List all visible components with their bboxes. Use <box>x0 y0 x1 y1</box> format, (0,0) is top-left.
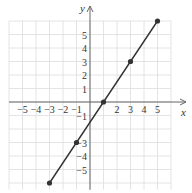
x-axis-label: x <box>180 106 186 118</box>
y-tick-label: 3 <box>82 57 87 68</box>
coordinate-plane-graph: xy −5−4−3−2−1234554321−1−3−4−5 <box>0 0 192 193</box>
axes: xy <box>9 2 186 190</box>
x-tick-label: 4 <box>142 104 147 115</box>
y-tick-label: 2 <box>82 70 87 81</box>
y-tick-label: 5 <box>82 30 87 41</box>
y-axis-label: y <box>79 2 85 14</box>
y-tick-label: 1 <box>82 84 87 95</box>
data-point <box>155 18 160 23</box>
x-tick-label: −2 <box>58 104 69 115</box>
y-tick-label: −4 <box>76 151 87 162</box>
x-tick-label: 2 <box>115 104 120 115</box>
data-point <box>74 140 79 145</box>
x-tick-label: 3 <box>128 104 133 115</box>
x-tick-label: −5 <box>17 104 28 115</box>
data-point <box>47 180 52 185</box>
y-tick-label: 4 <box>82 43 87 54</box>
x-tick-label: 5 <box>155 104 160 115</box>
x-tick-label: −4 <box>31 104 42 115</box>
y-tick-label: −1 <box>76 111 87 122</box>
y-tick-label: −5 <box>76 165 87 176</box>
data-point <box>101 99 106 104</box>
x-tick-label: −3 <box>44 104 55 115</box>
data-point <box>128 59 133 64</box>
